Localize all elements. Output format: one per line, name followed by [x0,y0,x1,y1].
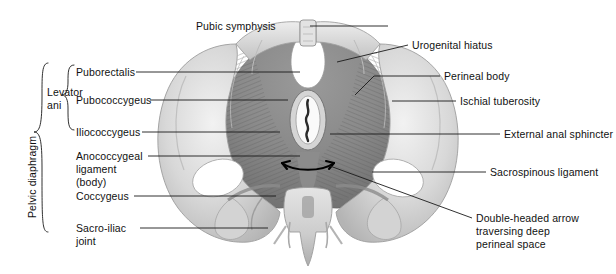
pelvic-floor-figure: Pelvic diaphragm Levator ani Puborectali… [0,0,616,274]
label-puborectalis: Puborectalis [76,66,135,79]
pubic-symphysis-joint [300,20,316,46]
label-perineal-body: Perineal body [444,70,510,83]
label-sacroiliac-joint-line1: Sacro-iliac [76,222,126,235]
brace-label-pelvic-diaphragm: Pelvic diaphragm [26,136,39,218]
label-sacroiliac-joint-line2: joint [76,235,96,248]
label-urogenital-hiatus: Urogenital hiatus [412,39,493,52]
brace-label-ani: ani [47,99,61,112]
label-pubic-symphysis: Pubic symphysis [196,20,276,33]
label-coccygeus: Coccygeus [76,190,129,203]
label-pubococcygeus: Pubococcygeus [76,94,151,107]
label-ischial-tuberosity: Ischial tuberosity [460,95,540,108]
label-sacrospinous-ligament: Sacrospinous ligament [490,166,598,179]
label-double-arrow-line1: Double-headed arrow [476,212,579,225]
label-double-arrow-line2: traversing deep [476,225,550,238]
label-anococcygeal-ligament-line1: Anococcygeal [76,150,143,163]
sacral-canal [302,196,314,218]
label-double-arrow-line3: perineal space [476,238,546,251]
label-anococcygeal-ligament-line2: ligament [76,163,117,176]
label-external-anal-sphincter: External anal sphincter [504,128,613,141]
label-iliococcygeus: Iliococcygeus [76,126,140,139]
label-anococcygeal-ligament-line3: (body) [76,176,106,189]
external-anal-sphincter-oval [290,90,326,150]
